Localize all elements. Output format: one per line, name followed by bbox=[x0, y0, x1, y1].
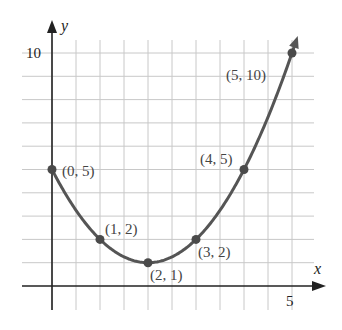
data-point bbox=[240, 165, 249, 174]
point-label-3-2: (3, 2) bbox=[198, 244, 231, 261]
curve-arrow-icon bbox=[289, 36, 298, 49]
x-axis-arrow-icon bbox=[312, 281, 326, 291]
y-tick-10: 10 bbox=[26, 45, 41, 61]
data-point bbox=[144, 258, 153, 267]
data-point bbox=[288, 49, 297, 58]
point-label-1-2: (1, 2) bbox=[105, 221, 138, 238]
parabola-chart: y x 10 5 (0, 5) (1, 2) (2, 1) (3, 2) (4,… bbox=[0, 0, 342, 330]
data-point bbox=[192, 235, 201, 244]
y-axis-arrow-icon bbox=[47, 20, 57, 33]
point-label-2-1: (2, 1) bbox=[150, 267, 183, 284]
point-label-4-5: (4, 5) bbox=[200, 151, 233, 168]
data-point bbox=[96, 235, 105, 244]
x-tick-5: 5 bbox=[286, 293, 294, 309]
data-point bbox=[48, 165, 57, 174]
y-axis-label: y bbox=[59, 17, 69, 35]
x-axis-label: x bbox=[313, 260, 321, 277]
point-label-0-5: (0, 5) bbox=[62, 163, 95, 180]
point-label-5-10: (5, 10) bbox=[226, 67, 266, 84]
